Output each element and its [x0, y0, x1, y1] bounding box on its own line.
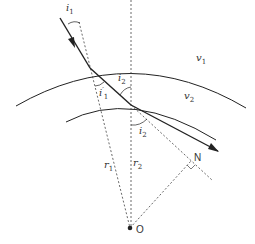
label-v1: v1 — [196, 53, 206, 66]
center-point-O — [128, 226, 133, 231]
label-v2: v2 — [184, 91, 194, 104]
radius-r1-line — [79, 22, 130, 228]
diagram-graphics — [0, 0, 255, 244]
label-i2-bottom: i2 — [139, 126, 147, 139]
angle-arc-i1 — [68, 22, 80, 24]
refraction-diagram: i1 i′1 i2 i2 v1 v2 r1 r2 N O — [0, 0, 255, 244]
label-r2: r2 — [133, 158, 142, 171]
label-O: O — [136, 225, 144, 235]
label-i1-prime: i′1 — [99, 87, 108, 101]
label-N: N — [194, 153, 201, 163]
label-i2-top: i2 — [118, 73, 126, 86]
right-angle-marker — [187, 165, 195, 169]
label-r1: r1 — [104, 160, 113, 173]
angle-arc-i2-top — [120, 87, 131, 95]
incident-ray — [60, 18, 90, 68]
perpendicular-ON-line — [130, 161, 191, 228]
outer-boundary-arc — [16, 73, 246, 108]
label-i1: i1 — [66, 3, 74, 16]
refracted-arrow-icon — [208, 143, 219, 152]
ray-extension-line — [131, 105, 212, 180]
incident-arrow-icon — [68, 37, 75, 48]
